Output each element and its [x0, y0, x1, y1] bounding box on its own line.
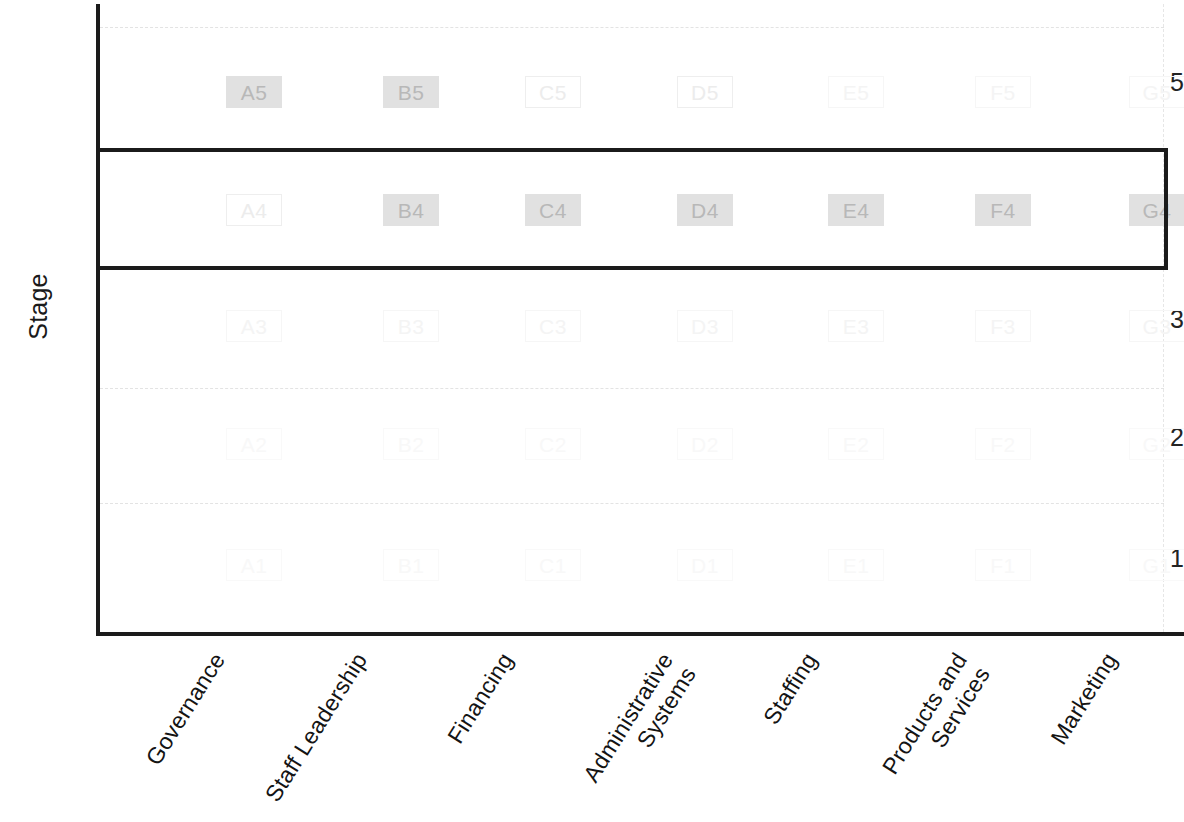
gridline-2-3 — [100, 388, 1164, 390]
heatmap-cell-g1: G1 — [1129, 549, 1184, 581]
heatmap-cell-b5: B5 — [383, 76, 439, 108]
heatmap-cell-c1: C1 — [525, 549, 581, 581]
heatmap-cell-c5: C5 — [525, 76, 581, 108]
plot-area: A5B5C5D5E5F5G5A4B4C4D4E4F4G4A3B3C3D3E3F3… — [100, 4, 1164, 632]
x-axis-line — [96, 632, 1184, 636]
heatmap-cell-a1: A1 — [226, 549, 282, 581]
x-tick-label-staff-leadership: Staff Leadership — [212, 648, 373, 822]
x-tick-label-governance: Governance — [70, 648, 231, 822]
gridline-top — [100, 27, 1164, 29]
heatmap-cell-e3: E3 — [828, 310, 884, 342]
heatmap-cell-d5: D5 — [677, 76, 733, 108]
heatmap-cell-c3: C3 — [525, 310, 581, 342]
heatmap-cell-g5: G5 — [1129, 76, 1184, 108]
heatmap-cell-b2: B2 — [383, 428, 439, 460]
heatmap-cell-f2: F2 — [975, 428, 1031, 460]
heatmap-cell-d1: D1 — [677, 549, 733, 581]
heatmap-cell-a2: A2 — [226, 428, 282, 460]
heatmap-cell-g2: G2 — [1129, 428, 1184, 460]
heatmap-cell-e1: E1 — [828, 549, 884, 581]
heatmap-cell-d2: D2 — [677, 428, 733, 460]
heatmap-cell-g3: G3 — [1129, 310, 1184, 342]
heatmap-cell-f5: F5 — [975, 76, 1031, 108]
heatmap-cell-a3: A3 — [226, 310, 282, 342]
heatmap-cell-c2: C2 — [525, 428, 581, 460]
stage-4-highlight-box — [96, 148, 1168, 270]
x-tick-label-financing: Financing — [358, 648, 519, 822]
chart-root: Stage 5 4 3 2 1 A5B5C5D5E5F5G5A4B4C4D4E4… — [0, 0, 1184, 822]
x-tick-label-administrative-systems: Administrative Systems — [518, 648, 702, 822]
heatmap-cell-f3: F3 — [975, 310, 1031, 342]
heatmap-cell-e5: E5 — [828, 76, 884, 108]
heatmap-cell-e2: E2 — [828, 428, 884, 460]
heatmap-cell-b1: B1 — [383, 549, 439, 581]
heatmap-cell-d3: D3 — [677, 310, 733, 342]
y-axis-title: Stage — [24, 247, 53, 367]
gridline-1-2 — [100, 503, 1164, 505]
heatmap-cell-b3: B3 — [383, 310, 439, 342]
heatmap-cell-f1: F1 — [975, 549, 1031, 581]
x-tick-label-products-and-services: Products and Services — [812, 648, 996, 822]
heatmap-cell-a5: A5 — [226, 76, 282, 108]
